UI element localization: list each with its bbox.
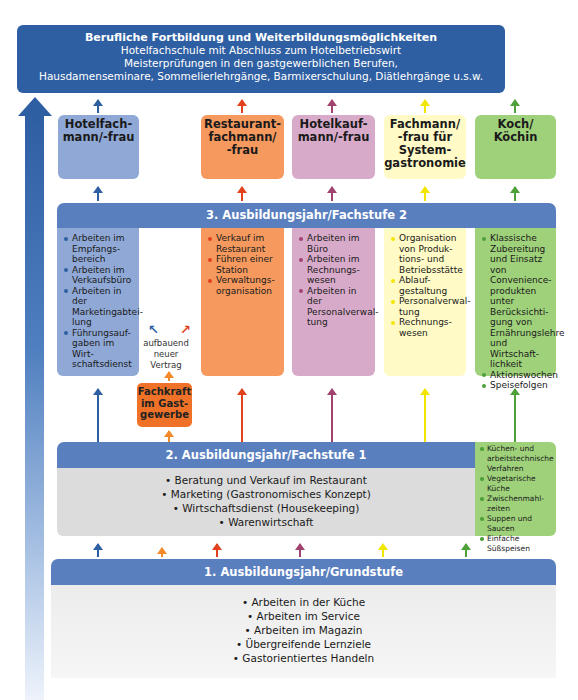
banner-line: Hotelfachschule mit Abschluss zum Hotelb… <box>17 44 505 57</box>
list-item: Zwischenmahl-zeiten <box>479 494 554 514</box>
arrow-up-icon <box>216 544 218 557</box>
arrow-up-icon <box>424 187 426 201</box>
job-label-line: Köchin <box>475 131 556 144</box>
job-label-line: im Gast- <box>137 398 192 410</box>
arrow-up-icon <box>97 100 99 113</box>
list-item: Vegetarische Küche <box>479 474 554 494</box>
note-line: Vertrag <box>138 360 194 371</box>
arrow-up-icon <box>161 548 163 557</box>
list-item: Rechnungs-wesen <box>391 317 462 338</box>
list-item: Verwaltungs-organisation <box>208 275 280 296</box>
list-item: Verkauf im Restaurant <box>208 233 280 254</box>
stage3-col-restaurant: Verkauf im Restaurant Führen einer Stati… <box>201 228 284 376</box>
list-item: Arbeiten in der Personalverwal-tung <box>299 286 371 328</box>
arrow-up-left-icon: ↖ <box>148 322 159 337</box>
note-line: neuer <box>138 349 194 360</box>
job-label-line: -frau <box>201 144 284 157</box>
arrow-up-right-icon: ↗ <box>180 322 191 337</box>
list-item: Suppen und Saucen <box>479 514 554 534</box>
arrow-up-icon <box>168 372 170 381</box>
progression-arrow-head-icon <box>18 97 52 116</box>
arrow-up-icon <box>331 100 333 113</box>
arrow-up-icon <box>514 100 516 113</box>
arrow-up-icon <box>331 389 333 442</box>
list-item: Ablauf-gestaltung <box>391 275 462 296</box>
job-label-line: gastronomie <box>384 157 466 170</box>
job-hotelfachmann: Hotelfach- mann/-frau <box>58 115 139 179</box>
arrow-up-icon <box>97 187 99 201</box>
progression-arrow-shaft <box>25 115 44 700</box>
job-label-line: gewerbe <box>137 409 192 421</box>
banner-title: Berufliche Fortbildung und Weiterbildung… <box>17 31 505 44</box>
arrow-up-icon <box>97 544 99 557</box>
arrow-up-icon <box>168 431 170 442</box>
list-item: Arbeiten im Büro <box>299 233 371 254</box>
arrow-up-icon <box>241 389 243 442</box>
job-label-line: mann/-frau <box>58 131 139 144</box>
banner-line: Meisterprüfungen in den gastgewerblichen… <box>17 57 505 70</box>
arrow-up-icon <box>97 389 99 442</box>
stage3-col-hotelfach: Arbeiten im Empfangs-bereich Arbeiten im… <box>57 228 139 376</box>
job-label-line: Fachkraft <box>137 386 192 398</box>
arrow-up-icon <box>382 544 384 557</box>
list-item: Einfache Süßspeisen <box>479 534 554 554</box>
list-item: Arbeiten in der Marketingabtei-lung <box>64 286 135 328</box>
list-item: Küchen- und arbeitstechnische Verfahren <box>479 444 554 474</box>
arrow-up-icon <box>424 100 426 113</box>
arrow-up-icon <box>465 544 467 557</box>
banner-line: Hausdamenseminare, Sommelierlehrgänge, B… <box>17 70 505 83</box>
list-item: Führungsauf-gaben im Wirt-schaftsdienst <box>64 328 135 370</box>
arrow-up-icon <box>514 187 516 201</box>
stage3-col-hotelkauf: Arbeiten im Büro Arbeiten im Rechnungs-w… <box>292 228 375 376</box>
list-item: • Arbeiten in der Küche <box>51 595 556 609</box>
stage3-col-system: Organisation von Produk-tions- und Betri… <box>384 228 466 376</box>
arrow-up-icon <box>299 544 301 557</box>
list-item: Personalverwal-tung <box>391 296 462 317</box>
job-restaurantfachmann: Restaurant- fachmann/ -frau <box>201 115 284 179</box>
arrow-up-icon <box>241 187 243 201</box>
list-item: Arbeiten im Rechnungs-wesen <box>299 254 371 286</box>
list-item: • Warenwirtschaft <box>57 515 475 529</box>
arrow-up-icon <box>424 389 426 442</box>
list-item: Klassische Zubereitung und Einsatz von C… <box>482 233 552 370</box>
list-item: • Beratung und Verkauf im Restaurant <box>57 473 475 487</box>
job-hotelkaufmann: Hotelkauf- mann/-frau <box>292 115 375 179</box>
stage2-content: • Beratung und Verkauf im Restaurant • M… <box>57 468 475 536</box>
stage3-header: 3. Ausbildungsjahr/Fachstufe 2 <box>57 203 556 228</box>
further-education-banner: Berufliche Fortbildung und Weiterbildung… <box>17 25 505 93</box>
arrow-up-icon <box>514 389 516 442</box>
list-item: • Arbeiten im Service <box>51 609 556 623</box>
stage3-col-koch: Klassische Zubereitung und Einsatz von C… <box>475 228 556 376</box>
job-systemgastronomie: Fachmann/ -frau für System- gastronomie <box>384 115 466 179</box>
list-item: Arbeiten im Empfangs-bereich <box>64 233 135 265</box>
list-item: • Gastorientiertes Handeln <box>51 651 556 665</box>
job-koch: Koch/ Köchin <box>475 115 556 179</box>
arrow-up-icon <box>331 187 333 201</box>
stage2-header: 2. Ausbildungsjahr/Fachstufe 1 <box>57 442 475 468</box>
list-item: Aktionswochen <box>482 370 552 381</box>
stage1-content: • Arbeiten in der Küche • Arbeiten im Se… <box>51 585 556 678</box>
list-item: Organisation von Produk-tions- und Betri… <box>391 233 462 275</box>
job-fachkraft-gastgewerbe: Fachkraft im Gast- gewerbe <box>137 383 192 427</box>
aufbauend-note: aufbauend neuer Vertrag <box>138 338 194 371</box>
list-item: Arbeiten im Verkaufsbüro <box>64 265 135 286</box>
list-item: • Wirtschaftsdienst (Housekeeping) <box>57 501 475 515</box>
list-item: Führen einer Station <box>208 254 280 275</box>
stage1-header: 1. Ausbildungsjahr/Grundstufe <box>51 559 556 585</box>
stage2-koch-content: Küchen- und arbeitstechnische Verfahren … <box>475 442 556 536</box>
list-item: • Arbeiten im Magazin <box>51 623 556 637</box>
list-item: • Marketing (Gastronomisches Konzept) <box>57 487 475 501</box>
note-line: aufbauend <box>138 338 194 349</box>
job-label-line: mann/-frau <box>292 131 375 144</box>
list-item: • Übergreifende Lernziele <box>51 637 556 651</box>
arrow-up-icon <box>241 100 243 113</box>
